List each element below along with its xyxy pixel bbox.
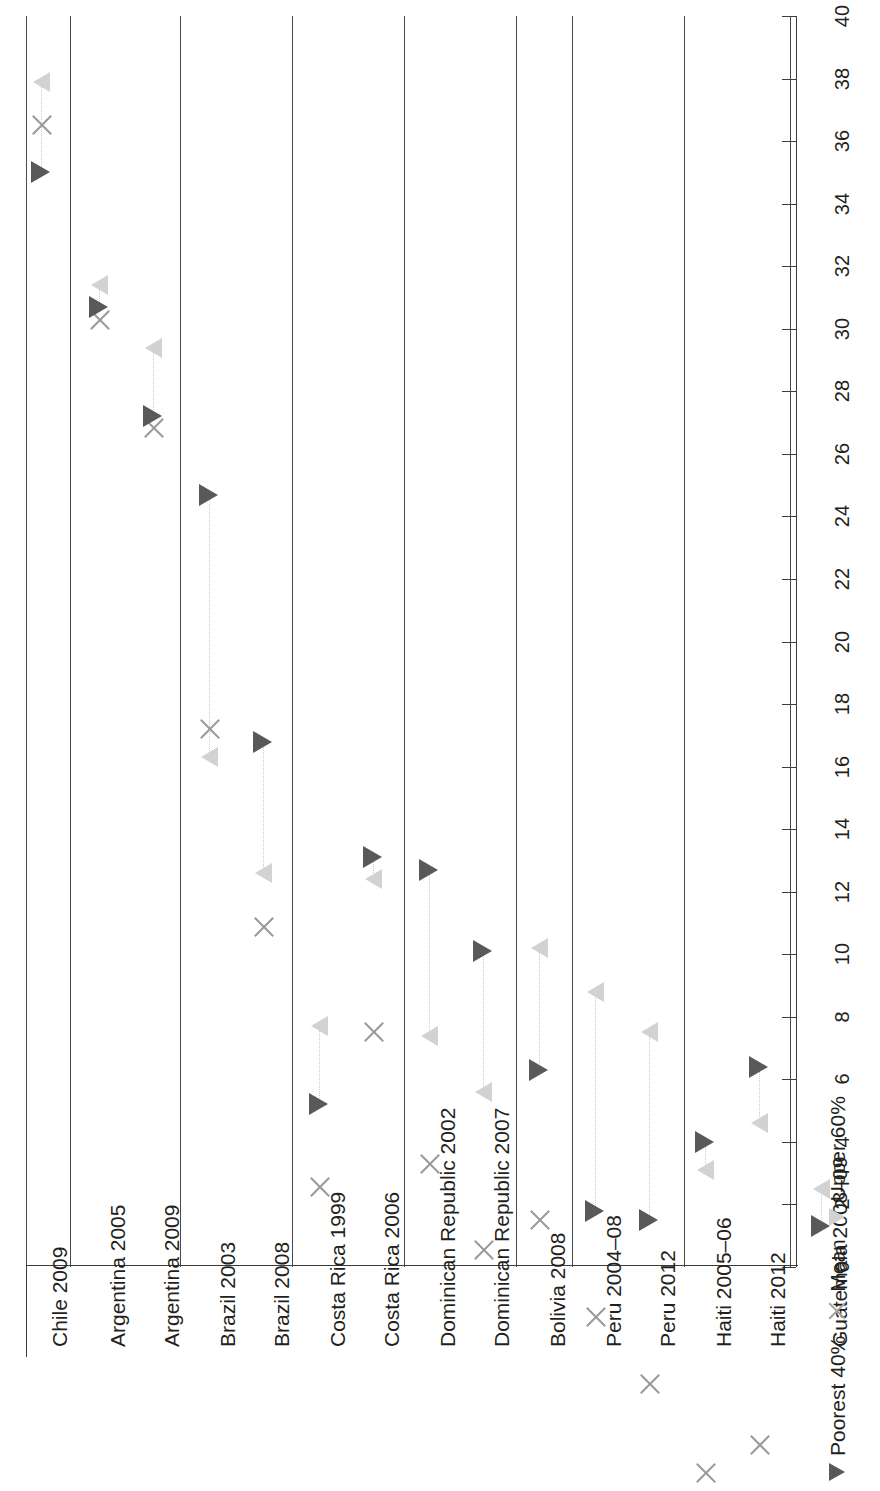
axis-tick-label-32: 32 (832, 236, 852, 296)
axis-tick-label-18: 18 (832, 674, 852, 734)
axis-tick-label-36: 36 (832, 111, 852, 171)
marker-upper60 (255, 863, 272, 883)
category-divider-7 (684, 16, 685, 1267)
category-axis-left-edge (26, 1265, 27, 1357)
marker-upper60 (531, 938, 548, 958)
marker-poorest40 (31, 161, 50, 183)
axis-tick-24 (782, 516, 796, 517)
marker-poorest40 (749, 1056, 768, 1078)
category-label-2: Argentina 2009 (161, 1205, 183, 1347)
axis-tick-label-22: 22 (832, 549, 852, 609)
marker-poorest40 (309, 1093, 328, 1115)
marker-upper60 (475, 1082, 492, 1102)
axis-tick-26 (782, 454, 796, 455)
marker-poorest40 (199, 484, 218, 506)
category-divider-2 (180, 16, 181, 1267)
category-label-7: Dominican Republic 2002 (437, 1108, 459, 1347)
marker-upper60 (587, 982, 604, 1002)
category-label-8: Dominican Republic 2007 (491, 1108, 513, 1347)
category-label-6: Costa Rica 2006 (381, 1192, 403, 1347)
category-divider-6 (572, 16, 573, 1267)
axis-tick-12 (782, 892, 796, 893)
category-label-9: Bolivia 2008 (547, 1233, 569, 1347)
axis-tick-label-30: 30 (832, 299, 852, 359)
marker-poorest40 (695, 1131, 714, 1153)
axis-tick-label-14: 14 (832, 799, 852, 859)
connector-line (483, 951, 484, 1092)
axis-tick-14 (782, 829, 796, 830)
axis-tick-label-10: 10 (832, 924, 852, 984)
marker-upper60 (33, 72, 50, 92)
marker-upper60 (751, 1113, 768, 1133)
category-label-4: Brazil 2008 (271, 1242, 293, 1347)
legend-label-0: Poorest 40% (827, 1336, 848, 1456)
marker-mean (637, 1371, 663, 1397)
axis-tick-label-40: 40 (832, 0, 852, 46)
axis-tick-34 (782, 204, 796, 205)
axis-tick-2 (782, 1204, 796, 1205)
category-label-0: Chile 2009 (49, 1247, 71, 1347)
axis-tick-20 (782, 642, 796, 643)
marker-poorest40 (529, 1059, 548, 1081)
connector-line (429, 870, 430, 1036)
category-label-11: Peru 2012 (657, 1250, 679, 1347)
marker-upper60 (201, 747, 218, 767)
axis-tick-40 (782, 16, 796, 17)
marker-mean (693, 1460, 719, 1486)
axis-tick-16 (782, 767, 796, 768)
connector-line (649, 1032, 650, 1220)
category-axis-baseline (26, 1265, 798, 1266)
marker-poorest40 (639, 1209, 658, 1231)
axis-tick-30 (782, 329, 796, 330)
marker-upper60 (421, 1026, 438, 1046)
category-divider-1 (70, 16, 71, 1267)
legend-triangle-light-icon (829, 1208, 845, 1226)
connector-line (263, 742, 264, 873)
marker-mean (251, 914, 277, 940)
marker-poorest40 (419, 859, 438, 881)
axis-tick-label-20: 20 (832, 612, 852, 672)
axis-tick-label-38: 38 (832, 49, 852, 109)
legend-item-1: Mean (826, 1239, 848, 1322)
axis-tick-22 (782, 579, 796, 580)
axis-tick-18 (782, 704, 796, 705)
legend-label-1: Mean (827, 1239, 848, 1292)
marker-mean (527, 1207, 553, 1233)
marker-upper60 (365, 869, 382, 889)
data-markers-layer (0, 0, 880, 390)
marker-poorest40 (363, 846, 382, 868)
marker-poorest40 (89, 296, 108, 318)
category-divider-4 (404, 16, 405, 1267)
category-divider-0 (26, 16, 27, 1267)
legend-label-2: Upper 60% (827, 1096, 848, 1201)
axis-tick-label-34: 34 (832, 174, 852, 234)
axis-tick-label-8: 8 (832, 987, 852, 1047)
plot-area: 0246810121416182022242628303234363840 Ch… (0, 0, 880, 1491)
axis-tick-4 (782, 1142, 796, 1143)
axis-tick-label-26: 26 (832, 424, 852, 484)
axis-tick-label-28: 28 (832, 361, 852, 421)
legend-x-icon (826, 1300, 848, 1322)
axis-tick-28 (782, 391, 796, 392)
legend-item-0: Poorest 40% (827, 1336, 848, 1480)
axis-tick-36 (782, 141, 796, 142)
legend-item-2: Upper 60% (827, 1096, 848, 1225)
marker-poorest40 (253, 731, 272, 753)
category-divider-3 (292, 16, 293, 1267)
value-axis-line (796, 16, 797, 1267)
category-divider-8 (790, 16, 791, 1267)
axis-tick-8 (782, 1017, 796, 1018)
marker-mean (747, 1432, 773, 1458)
marker-upper60 (91, 275, 108, 295)
chart-canvas: 0246810121416182022242628303234363840 Ch… (0, 0, 880, 1491)
category-divider-5 (516, 16, 517, 1267)
marker-mean (197, 716, 223, 742)
axis-tick-label-16: 16 (832, 737, 852, 797)
marker-poorest40 (473, 940, 492, 962)
category-label-1: Argentina 2005 (107, 1205, 129, 1347)
axis-tick-38 (782, 79, 796, 80)
category-label-3: Brazil 2003 (217, 1242, 239, 1347)
category-label-5: Costa Rica 1999 (327, 1192, 349, 1347)
category-label-13: Haiti 2012 (767, 1252, 789, 1347)
legend-triangle-dark-icon (829, 1463, 845, 1481)
